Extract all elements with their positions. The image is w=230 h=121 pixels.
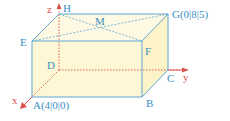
label-F: F [145, 45, 151, 57]
label-A: A(4|0|0) [33, 99, 70, 112]
cuboid-diagram: z H M G(0|8|5) E F D C y B x A(4|0|0) [0, 0, 230, 121]
label-y-axis: y [183, 71, 189, 83]
label-M: M [95, 15, 105, 27]
label-z-axis: z [47, 3, 52, 15]
x-axis-solid [24, 97, 32, 105]
label-C: C [167, 72, 174, 84]
label-H: H [63, 2, 71, 14]
label-x-axis: x [12, 94, 18, 106]
label-G: G(0|8|5) [172, 8, 209, 21]
label-D: D [47, 59, 55, 71]
label-B: B [146, 97, 153, 109]
diagram-svg: z H M G(0|8|5) E F D C y B x A(4|0|0) [0, 0, 230, 121]
label-E: E [20, 36, 27, 48]
z-axis-arrow-icon [57, 3, 62, 9]
